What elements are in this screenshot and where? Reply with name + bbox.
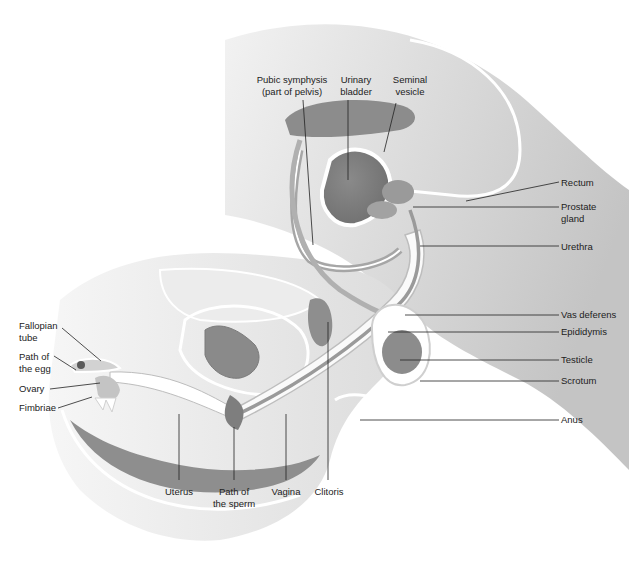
label-pubic-symphysis: Pubic symphysis (part of pelvis) [248, 74, 336, 98]
label-fimbriae: Fimbriae [19, 402, 56, 414]
label-path-of-egg: Path of the egg [19, 351, 51, 375]
egg [77, 361, 85, 369]
label-rectum: Rectum [561, 177, 594, 189]
label-anus: Anus [561, 414, 583, 426]
label-ovary: Ovary [19, 383, 44, 395]
label-seminal-vesicle: Seminal vesicle [384, 74, 436, 98]
testicle [382, 330, 422, 374]
label-fallopian-tube: Fallopian tube [19, 320, 58, 344]
label-vas-deferens: Vas deferens [561, 309, 616, 321]
label-clitoris: Clitoris [306, 486, 352, 498]
prostate-gland [367, 201, 397, 219]
label-scrotum: Scrotum [561, 375, 596, 387]
label-urethra: Urethra [561, 241, 593, 253]
label-vagina: Vagina [263, 486, 309, 498]
label-testicle: Testicle [561, 354, 593, 366]
seminal-vesicle [382, 180, 414, 204]
label-uterus: Uterus [155, 486, 203, 498]
label-urinary-bladder: Urinary bladder [330, 74, 382, 98]
reproductive-anatomy-diagram: Pubic symphysis (part of pelvis) Urinary… [0, 0, 629, 561]
label-prostate-gland: Prostate gland [561, 201, 596, 225]
label-path-of-sperm: Path of the sperm [204, 486, 264, 510]
label-epididymis: Epididymis [561, 326, 607, 338]
